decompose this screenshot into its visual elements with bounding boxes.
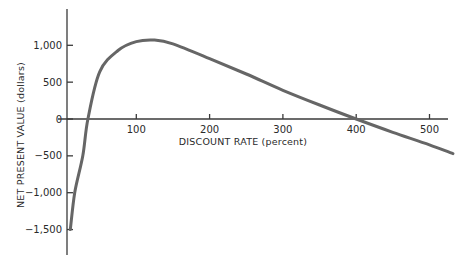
- x-axis-title: DISCOUNT RATE (percent): [179, 136, 307, 147]
- y-axis: 1,0005000−500−1,000−1,500 NET PRESENT VA…: [15, 9, 73, 255]
- y-tick-label: 1,000: [33, 40, 62, 51]
- x-tick-label: 500: [420, 124, 439, 135]
- x-tick-label: 200: [200, 124, 219, 135]
- y-tick-label: −1,500: [25, 224, 62, 235]
- x-tick-label: 400: [347, 124, 366, 135]
- x-tick-label: 100: [127, 124, 146, 135]
- y-tick-label: −1,000: [25, 187, 62, 198]
- npv-chart: 1,0005000−500−1,000−1,500 NET PRESENT VA…: [0, 0, 470, 269]
- x-tick-label: 300: [273, 124, 292, 135]
- y-tick-label: 500: [43, 77, 62, 88]
- y-ticks: 1,0005000−500−1,000−1,500: [25, 40, 73, 235]
- y-axis-title: NET PRESENT VALUE (dollars): [15, 62, 26, 208]
- y-tick-label: −500: [35, 150, 62, 161]
